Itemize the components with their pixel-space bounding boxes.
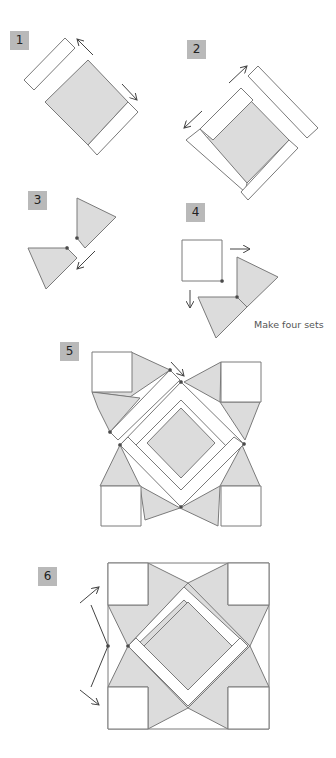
step-4-diagram [182, 240, 278, 338]
step-1-diagram [24, 38, 138, 155]
quilt-diagram [0, 0, 336, 758]
step-3-diagram [28, 198, 116, 289]
step-5-diagram [92, 352, 261, 526]
step-2-diagram [184, 66, 318, 200]
step-6-diagram [80, 563, 269, 729]
